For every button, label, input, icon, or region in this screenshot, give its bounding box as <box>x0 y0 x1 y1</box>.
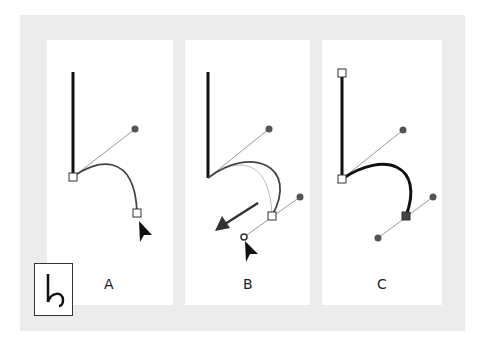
anchor-point-icon <box>338 175 346 183</box>
selected-anchor-point-icon <box>402 212 410 220</box>
panel-c-path <box>338 69 437 242</box>
panel-b-label: B <box>243 276 253 292</box>
cursor-arrow-icon <box>139 221 152 242</box>
panel-c-label: C <box>377 276 387 292</box>
tool-glyph-icon <box>35 264 72 315</box>
handle-dot-icon <box>297 194 304 201</box>
panel-a-label: A <box>104 276 114 292</box>
handle-dot-icon <box>375 235 382 242</box>
panel-b-path <box>208 72 304 262</box>
handle-dot-icon <box>132 126 139 133</box>
handle-dot-icon <box>430 194 437 201</box>
anchor-point-icon <box>338 69 346 77</box>
convert-anchor-point-tool-icon <box>34 263 73 316</box>
cursor-arrow-icon <box>245 241 258 262</box>
anchor-point-icon <box>133 209 141 217</box>
anchor-point-icon <box>69 173 77 181</box>
anchor-point-icon <box>268 212 276 220</box>
panel-a-path <box>69 72 152 242</box>
handle-dot-icon <box>266 126 273 133</box>
handle-dot-icon <box>400 127 407 134</box>
